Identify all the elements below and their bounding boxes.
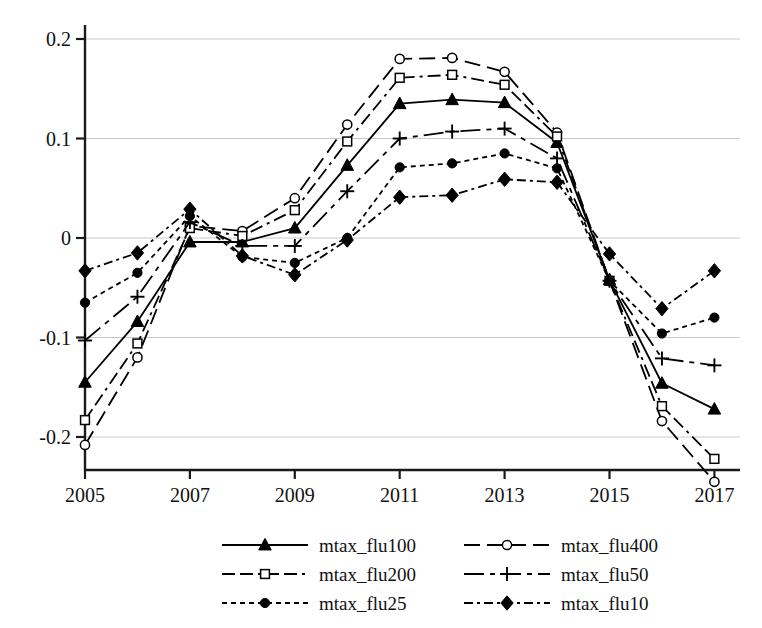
legend-label-mtax_flu10: mtax_flu10 [561,593,649,614]
marker-circle-filled [290,258,299,267]
axes [84,25,740,470]
marker-square-open [448,70,457,79]
chart-legend: mtax_flu100mtax_flu400mtax_flu200mtax_fl… [222,535,658,614]
marker-circle-filled [552,164,561,173]
marker-plus [498,122,512,136]
x-axis-ticks: 2005200720092011201320152017 [65,470,734,506]
marker-circle-open [343,120,352,129]
legend-label-mtax_flu400: mtax_flu400 [561,535,658,556]
marker-circle-open [290,194,299,203]
legend-label-mtax_flu200: mtax_flu200 [319,564,416,585]
marker-square-open [658,402,667,411]
marker-circle-filled [80,298,89,307]
line-chart: 0.20.10-0.1-0.2 200520072009201120132015… [0,0,762,628]
marker-diamond-filled [498,172,510,186]
marker-circle-filled [133,268,142,277]
marker-diamond-filled [656,301,668,315]
x-tick-label: 2011 [380,484,419,506]
y-axis-ticks: 0.20.10-0.1-0.2 [39,28,85,448]
marker-square-open [710,454,719,463]
marker-plus [445,125,459,139]
marker-diamond-filled [394,190,406,204]
marker-circle-open [710,477,719,486]
marker-circle-open [448,53,457,62]
marker-square-open [553,132,562,141]
marker-triangle-filled [708,403,721,415]
legend-item-mtax_flu400[interactable]: mtax_flu400 [464,535,658,556]
legend-item-mtax_flu200[interactable]: mtax_flu200 [222,564,416,585]
marker-square-open [133,339,142,348]
marker-circle-filled [260,598,269,607]
legend-label-mtax_flu50: mtax_flu50 [561,564,649,585]
marker-diamond-filled [708,264,720,278]
marker-plus [707,358,721,372]
legend-item-mtax_flu50[interactable]: mtax_flu50 [464,564,649,585]
chart-root: 0.20.10-0.1-0.2 200520072009201120132015… [0,0,762,628]
plot-area [78,53,721,486]
marker-square-open [290,206,299,215]
x-tick-label: 2009 [275,484,315,506]
marker-circle-filled [710,313,719,322]
y-tick-label: -0.1 [39,327,71,349]
marker-diamond-filled [446,188,458,202]
y-tick-label: 0.1 [46,128,71,150]
marker-square-open [343,137,352,146]
marker-diamond-filled [341,233,353,247]
y-tick-label: 0.2 [46,28,71,50]
marker-diamond-filled [289,268,301,282]
series-mtax_flu50 [78,122,721,373]
marker-triangle-filled [656,377,669,389]
marker-circle-open [133,353,142,362]
marker-circle-filled [448,159,457,168]
marker-circle-filled [605,276,614,285]
marker-circle-open [80,440,89,449]
x-tick-label: 2017 [694,484,734,506]
x-tick-label: 2015 [590,484,630,506]
series-mtax_flu400 [80,53,719,486]
series-mtax_flu10 [79,172,721,316]
marker-triangle-filled [446,93,459,105]
x-tick-label: 2013 [485,484,525,506]
y-tick-label: -0.2 [39,426,71,448]
marker-circle-filled [500,149,509,158]
x-tick-label: 2005 [65,484,105,506]
marker-square-open [500,80,509,89]
marker-circle-open [657,416,666,425]
marker-square-open [261,570,270,579]
legend-item-mtax_flu10[interactable]: mtax_flu10 [464,593,649,614]
legend-item-mtax_flu25[interactable]: mtax_flu25 [222,593,407,614]
legend-label-mtax_flu25: mtax_flu25 [319,593,407,614]
series-mtax_flu25 [80,149,719,338]
series-line [85,58,714,482]
legend-item-mtax_flu100[interactable]: mtax_flu100 [222,535,416,556]
marker-plus [500,567,514,581]
marker-diamond-filled [501,596,513,610]
x-tick-label: 2007 [170,484,210,506]
marker-circle-open [502,540,511,549]
y-tick-label: 0 [61,227,71,249]
marker-diamond-filled [79,264,91,278]
marker-square-open [81,416,90,425]
marker-diamond-filled [236,249,248,263]
marker-square-open [395,73,404,82]
marker-circle-open [500,67,509,76]
gridlines [85,39,740,437]
marker-circle-filled [657,329,666,338]
marker-circle-open [395,54,404,63]
marker-circle-filled [395,163,404,172]
marker-diamond-filled [131,246,143,260]
marker-plus [655,351,669,365]
marker-triangle-filled [131,315,144,327]
marker-plus [130,290,144,304]
legend-label-mtax_flu100: mtax_flu100 [319,535,416,556]
